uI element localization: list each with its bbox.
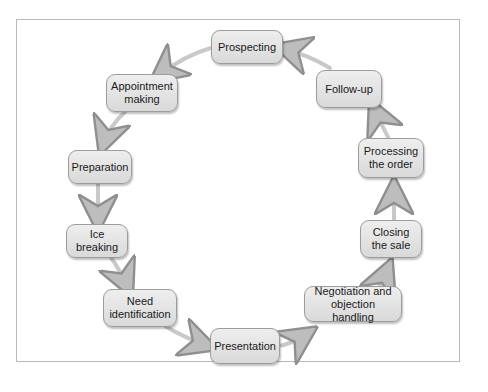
node-label: Appointment making xyxy=(111,80,173,106)
node-label: Prospecting xyxy=(218,41,276,54)
node-closing-the-sale: Closing the sale xyxy=(360,220,422,258)
node-follow-up: Follow-up xyxy=(316,70,382,108)
node-label: Preparation xyxy=(72,161,129,174)
node-label: Processing the order xyxy=(363,145,419,171)
node-presentation: Presentation xyxy=(210,328,280,364)
node-label: Negotiation and objection handling xyxy=(309,285,397,324)
node-ice-breaking: Ice breaking xyxy=(66,224,128,258)
node-label: Closing the sale xyxy=(365,226,417,252)
node-label: Need identification xyxy=(108,295,172,321)
node-label: Presentation xyxy=(214,340,276,353)
node-label: Follow-up xyxy=(325,83,373,96)
node-need-identification: Need identification xyxy=(103,289,177,327)
node-preparation: Preparation xyxy=(68,150,132,184)
node-prospecting: Prospecting xyxy=(211,30,283,64)
node-processing-the-order: Processing the order xyxy=(358,138,424,178)
node-appointment-making: Appointment making xyxy=(106,74,178,112)
node-negotiation: Negotiation and objection handling xyxy=(304,286,402,322)
node-label: Ice breaking xyxy=(71,228,123,254)
